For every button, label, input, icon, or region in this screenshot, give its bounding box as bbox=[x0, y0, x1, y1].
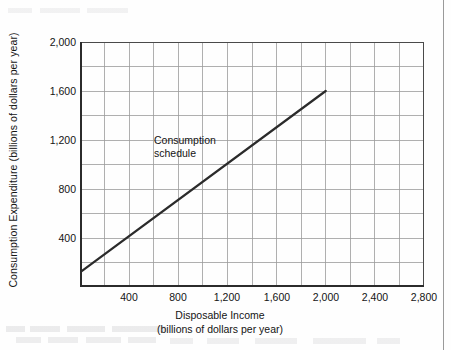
y-axis-title: Consumption Expenditure (billions of dol… bbox=[7, 32, 19, 287]
x-tick-label: 1,600 bbox=[255, 292, 299, 303]
annotation-line-1: Consumption bbox=[154, 134, 216, 147]
x-tick-label: 400 bbox=[107, 292, 151, 303]
x-axis-tick-labels: 400 800 1,200 1,600 2,000 2,400 2,800 bbox=[0, 292, 451, 306]
x-tick-label: 2,000 bbox=[304, 292, 348, 303]
x-tick-label: 2,400 bbox=[353, 292, 397, 303]
y-tick-label: 2,000 bbox=[50, 37, 76, 48]
x-axis-title: Disposable Income bbox=[0, 308, 440, 322]
x-tick-label: 800 bbox=[156, 292, 200, 303]
x-tick-label: 1,200 bbox=[205, 292, 249, 303]
x-axis-title-block: Disposable Income (billions of dollars p… bbox=[0, 308, 440, 336]
consumption-schedule-annotation: Consumption schedule bbox=[154, 134, 216, 160]
y-tick-label: 1,200 bbox=[50, 135, 76, 146]
y-tick-label: 1,600 bbox=[50, 86, 76, 97]
chart-figure: Consumption Expenditure (billions of dol… bbox=[0, 0, 451, 350]
annotation-line-2: schedule bbox=[154, 147, 216, 160]
chart-canvas bbox=[80, 42, 424, 287]
x-tick-label: 2,800 bbox=[402, 292, 446, 303]
y-tick-label: 400 bbox=[58, 233, 76, 244]
x-axis-subtitle: (billions of dollars per year) bbox=[0, 322, 440, 336]
y-tick-label: 800 bbox=[58, 184, 76, 195]
consumption-schedule-line bbox=[81, 91, 326, 272]
plot-area: Consumption schedule bbox=[80, 42, 424, 287]
y-axis-title-wrapper: Consumption Expenditure (billions of dol… bbox=[0, 0, 26, 320]
bleedthrough-ghost-text bbox=[170, 338, 400, 344]
